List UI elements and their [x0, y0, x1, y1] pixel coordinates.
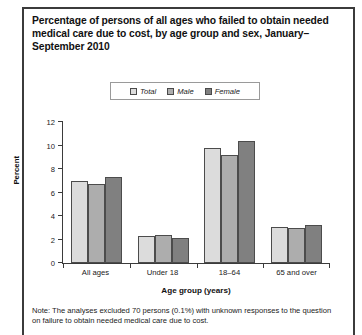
chart-title: Percentage of persons of all ages who fa… — [32, 14, 338, 54]
bar-female-3 — [305, 225, 322, 263]
y-axis-tick-label: 2 — [51, 235, 55, 244]
chart-legend: TotalMaleFemale — [110, 82, 260, 100]
legend-label-female: Female — [215, 87, 240, 96]
bar-female-0 — [105, 177, 122, 263]
bar-male-2 — [221, 155, 238, 263]
y-axis-tick-label: 6 — [51, 188, 55, 197]
x-axis-label-0: All ages — [62, 268, 129, 277]
figure-panel: Percentage of persons of all ages who fa… — [0, 0, 362, 335]
bar-female-2 — [238, 141, 255, 263]
x-axis-title: Age group (years) — [62, 286, 330, 295]
bar-groups — [63, 122, 330, 263]
bar-total-3 — [271, 227, 288, 263]
bar-total-0 — [71, 181, 88, 263]
legend-label-male: Male — [177, 87, 193, 96]
plot-axes: 024681012 — [62, 122, 330, 264]
bar-total-2 — [204, 148, 221, 263]
bar-total-1 — [138, 236, 155, 263]
y-axis-tick-label: 0 — [51, 259, 55, 268]
x-axis-label-3: 65 and over — [263, 268, 330, 277]
x-axis-tick-labels: All agesUnder 1818–6465 and over — [62, 268, 330, 277]
legend-swatch-female — [205, 88, 212, 95]
y-axis-tick-label: 10 — [47, 141, 55, 150]
x-axis-label-1: Under 18 — [129, 268, 196, 277]
bar-male-3 — [288, 228, 305, 263]
y-axis-tick-label: 12 — [47, 118, 55, 127]
legend-label-total: Total — [140, 87, 156, 96]
y-axis-tick-label: 4 — [51, 212, 55, 221]
legend-item-total: Total — [130, 87, 156, 96]
y-axis-title: Percent — [12, 156, 23, 185]
x-axis-label-2: 18–64 — [196, 268, 263, 277]
bar-group — [197, 122, 264, 263]
legend-swatch-male — [167, 88, 174, 95]
bar-female-1 — [172, 238, 189, 263]
legend-item-male: Male — [167, 87, 193, 96]
bar-group — [63, 122, 130, 263]
bar-group — [130, 122, 197, 263]
plot-area: 024681012 — [62, 122, 330, 264]
bar-group — [263, 122, 330, 263]
y-axis-tick-label: 8 — [51, 165, 55, 174]
legend-item-female: Female — [205, 87, 240, 96]
legend-swatch-total — [130, 88, 137, 95]
bar-male-0 — [88, 184, 105, 263]
chart-note: Note: The analyses excluded 70 persons (… — [32, 306, 332, 325]
bar-male-1 — [155, 235, 172, 263]
